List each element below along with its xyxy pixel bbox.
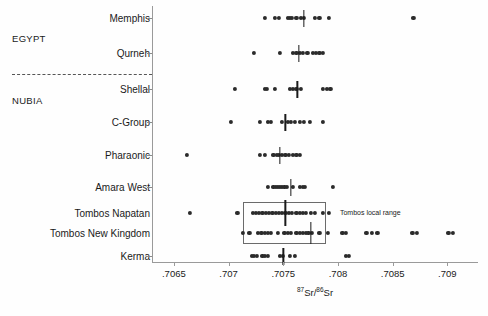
data-point xyxy=(278,51,282,55)
data-point xyxy=(299,87,303,91)
data-point xyxy=(327,16,331,20)
median-marker xyxy=(310,222,311,244)
x-tick xyxy=(447,262,448,266)
data-point xyxy=(326,231,330,235)
data-point xyxy=(328,87,332,91)
x-tick xyxy=(283,262,284,266)
median-marker xyxy=(297,81,298,98)
x-axis-title-sup-86: 86 xyxy=(316,286,323,293)
x-tick xyxy=(174,262,175,266)
data-point xyxy=(258,120,262,124)
data-point xyxy=(263,16,267,20)
x-tick-label: .708 xyxy=(329,268,348,279)
egypt-nubia-divider xyxy=(12,74,152,75)
data-point xyxy=(411,16,415,20)
x-axis-title: 87Sr/86Sr xyxy=(297,286,333,298)
data-point xyxy=(330,185,334,189)
data-point xyxy=(298,153,302,157)
tombos-local-range-label: Tombos local range xyxy=(340,209,401,216)
data-point xyxy=(185,153,189,157)
data-point xyxy=(284,185,288,189)
data-point xyxy=(302,120,306,124)
data-point xyxy=(321,120,325,124)
cat-label-qurneh: Qurneh xyxy=(117,48,150,59)
data-point xyxy=(303,185,307,189)
x-axis-title-mid: Sr/ xyxy=(304,287,316,298)
data-point xyxy=(252,51,256,55)
x-tick-label: .709 xyxy=(438,268,457,279)
median-marker xyxy=(285,200,286,226)
cat-label-tombos-napatan: Tombos Napatan xyxy=(74,208,150,219)
data-point xyxy=(277,16,281,20)
cat-label-shellal: Shellal xyxy=(120,84,150,95)
data-point xyxy=(321,51,325,55)
group-label-nubia: NUBIA xyxy=(12,95,43,106)
cat-label-amara-west: Amara West xyxy=(95,182,150,193)
x-tick-label: .7075 xyxy=(271,268,295,279)
data-point xyxy=(293,254,297,258)
x-tick xyxy=(393,262,394,266)
data-point xyxy=(269,120,273,124)
data-point xyxy=(188,211,192,215)
x-tick xyxy=(229,262,230,266)
x-axis-line xyxy=(152,262,478,263)
data-point xyxy=(255,254,259,258)
data-point xyxy=(364,231,368,235)
data-point xyxy=(280,120,284,124)
y-axis-line xyxy=(152,6,153,262)
strip-plot-figure: EGYPT NUBIA Memphis Qurneh Shellal C-Gro… xyxy=(0,0,488,316)
cat-label-pharaonic: Pharaonic xyxy=(105,150,150,161)
cat-label-memphis: Memphis xyxy=(109,13,150,24)
cat-label-kerma: Kerma xyxy=(121,251,150,262)
data-point xyxy=(327,211,331,215)
data-point xyxy=(266,254,270,258)
data-point xyxy=(370,231,374,235)
data-point xyxy=(307,120,311,124)
data-point xyxy=(415,231,419,235)
data-point xyxy=(451,231,455,235)
median-marker xyxy=(290,179,291,196)
x-axis-title-tail: Sr xyxy=(324,287,334,298)
median-marker xyxy=(285,114,286,131)
data-point xyxy=(291,185,295,189)
data-point xyxy=(317,16,321,20)
data-point xyxy=(235,211,239,215)
group-label-egypt: EGYPT xyxy=(12,33,46,44)
data-point xyxy=(375,231,379,235)
data-point xyxy=(288,254,292,258)
data-point xyxy=(305,51,309,55)
median-marker xyxy=(298,45,299,62)
x-tick xyxy=(338,262,339,266)
plot-area: Tombos local range .7065.707.7075.708.70… xyxy=(152,6,478,262)
median-marker xyxy=(303,10,304,27)
x-tick-label: .7065 xyxy=(162,268,186,279)
data-point xyxy=(229,120,233,124)
data-point xyxy=(263,153,267,157)
cat-label-c-group: C-Group xyxy=(112,117,150,128)
x-tick-label: .707 xyxy=(219,268,238,279)
data-point xyxy=(272,87,276,91)
data-point xyxy=(344,231,348,235)
data-point xyxy=(347,254,351,258)
median-marker xyxy=(279,147,280,164)
data-point xyxy=(233,87,237,91)
cat-label-tombos-new-kingdom: Tombos New Kingdom xyxy=(50,228,150,239)
x-tick-label: .7085 xyxy=(381,268,405,279)
data-point xyxy=(266,185,270,189)
data-point xyxy=(265,87,269,91)
